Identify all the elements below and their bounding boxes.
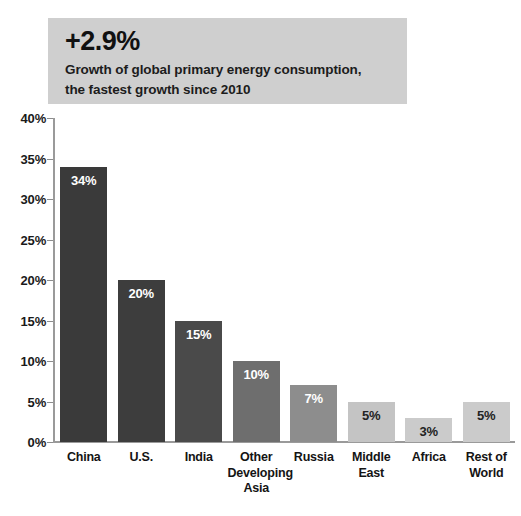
x-axis-category-label-line: India <box>170 450 228 466</box>
x-axis-category-label: MiddleEast <box>343 450 401 481</box>
y-axis-tick-label: 15% <box>0 313 46 328</box>
x-axis-category-label: India <box>170 450 228 466</box>
x-axis-category-label: Africa <box>400 450 458 466</box>
x-axis-category-label-line: U.S. <box>113 450 171 466</box>
y-axis-tick-label: 40% <box>0 111 46 126</box>
headline-description-line-1: Growth of global primary energy consumpt… <box>65 60 407 79</box>
bar[interactable]: 20% <box>118 280 165 442</box>
y-axis-tick-mark <box>47 402 53 403</box>
y-axis-tick-mark <box>47 321 53 322</box>
bar-value-label: 34% <box>71 173 96 188</box>
bar[interactable]: 7% <box>290 385 337 442</box>
x-axis-category-label-line: Rest of <box>458 450 516 466</box>
y-axis-tick-mark <box>47 240 53 241</box>
bar-value-label: 10% <box>244 367 269 382</box>
x-axis-category-label: OtherDevelopingAsia <box>228 450 286 497</box>
y-axis-tick-mark <box>47 280 53 281</box>
bar[interactable]: 5% <box>348 402 395 443</box>
x-axis-category-label-line: World <box>458 466 516 482</box>
bar[interactable]: 10% <box>233 361 280 442</box>
x-axis-category-label-line: Other <box>228 450 286 466</box>
x-axis-category-label: Russia <box>285 450 343 466</box>
x-axis-category-label-line: China <box>55 450 113 466</box>
bar-series: 34%20%15%10%7%5%3%5% <box>55 118 515 442</box>
x-axis-category-label-line: Developing <box>228 466 286 482</box>
y-axis-tick-mark <box>47 199 53 200</box>
x-axis-category-label-line: Middle <box>343 450 401 466</box>
bar-value-label: 5% <box>362 408 380 423</box>
y-axis-tick-label: 0% <box>0 435 46 450</box>
bar-value-label: 20% <box>129 286 154 301</box>
bar[interactable]: 3% <box>405 418 452 442</box>
bar-value-label: 7% <box>305 391 323 406</box>
bar[interactable]: 34% <box>60 167 107 442</box>
y-axis-tick-label: 5% <box>0 394 46 409</box>
y-axis-tick-mark <box>47 159 53 160</box>
y-axis-tick-label: 10% <box>0 354 46 369</box>
bar-value-label: 5% <box>477 408 495 423</box>
y-axis-tick-label: 30% <box>0 192 46 207</box>
x-axis-category-label-line: East <box>343 466 401 482</box>
bar-value-label: 15% <box>186 327 211 342</box>
x-axis-category-label-line: Africa <box>400 450 458 466</box>
y-axis-tick-mark <box>47 361 53 362</box>
x-axis-category-labels: ChinaU.S.IndiaOtherDevelopingAsiaRussiaM… <box>55 450 515 510</box>
bar-chart: 0%5%10%15%20%25%30%35%40% 34%20%15%10%7%… <box>0 110 521 516</box>
x-axis-category-label: U.S. <box>113 450 171 466</box>
x-axis-category-label: China <box>55 450 113 466</box>
y-axis-tick-label: 35% <box>0 151 46 166</box>
y-axis-tick-mark <box>47 118 53 119</box>
y-axis-tick-label: 25% <box>0 232 46 247</box>
headline-description-line-2: the fastest growth since 2010 <box>65 80 407 99</box>
bar[interactable]: 15% <box>175 321 222 443</box>
bar[interactable]: 5% <box>463 402 510 443</box>
y-axis-tick-label: 20% <box>0 273 46 288</box>
y-axis-labels: 0%5%10%15%20%25%30%35%40% <box>0 110 46 442</box>
header-callout-box: +2.9% Growth of global primary energy co… <box>48 18 407 104</box>
y-axis-tick-mark <box>47 442 53 443</box>
x-axis-category-label-line: Russia <box>285 450 343 466</box>
bar-value-label: 3% <box>420 424 438 439</box>
x-axis-category-label-line: Asia <box>228 481 286 497</box>
x-axis-category-label: Rest ofWorld <box>458 450 516 481</box>
headline-value: +2.9% <box>65 27 407 55</box>
